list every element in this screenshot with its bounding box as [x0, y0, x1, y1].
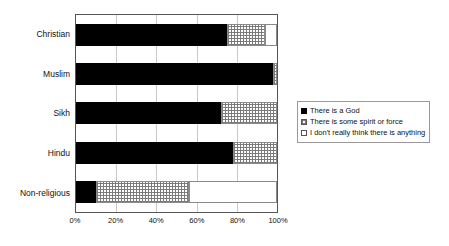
- value-axis-labels: 0%20%40%60%80%100%: [75, 216, 278, 230]
- bar-segment: [265, 24, 277, 46]
- legend-swatch-icon: [301, 119, 307, 125]
- category-label-christian: Christian: [0, 23, 70, 45]
- bar-row: [76, 181, 277, 203]
- bar-row: [76, 63, 277, 85]
- legend-swatch-icon: [301, 130, 307, 136]
- legend-item: I don't really think there is anything: [301, 128, 425, 138]
- bar-rows: [76, 15, 277, 212]
- bar-row: [76, 142, 277, 164]
- bar-row: [76, 24, 277, 46]
- bar-segment: [227, 24, 265, 46]
- bar-segment: [233, 142, 277, 164]
- bar-segment: [76, 181, 96, 203]
- category-label-non-religious: Non-religious: [0, 182, 70, 204]
- bar-segment: [96, 181, 188, 203]
- plot-area: [75, 14, 278, 213]
- legend-label: I don't really think there is anything: [310, 128, 425, 138]
- bar-segment: [76, 63, 273, 85]
- bar-segment: [273, 63, 277, 85]
- legend-item: There is some spirit or force: [301, 117, 425, 127]
- x-tick-label: 60%: [189, 216, 204, 225]
- x-tick-label: 20%: [108, 216, 123, 225]
- bar-segment: [221, 102, 277, 124]
- x-tick-label: 0%: [70, 216, 81, 225]
- bar-row: [76, 102, 277, 124]
- legend-item: There is a God: [301, 106, 425, 116]
- bar-segment: [76, 102, 221, 124]
- legend-label: There is some spirit or force: [310, 117, 403, 127]
- legend-swatch-icon: [301, 108, 307, 114]
- bar-segment: [76, 24, 227, 46]
- category-label-sikh: Sikh: [0, 102, 70, 124]
- x-tick-label: 100%: [268, 216, 287, 225]
- x-tick-label: 80%: [230, 216, 245, 225]
- bar-segment: [189, 181, 277, 203]
- legend-label: There is a God: [310, 106, 360, 116]
- bar-segment: [76, 142, 233, 164]
- x-tick-label: 40%: [149, 216, 164, 225]
- category-axis-labels: ChristianMuslimSikhHinduNon-religious: [0, 14, 70, 213]
- category-label-hindu: Hindu: [0, 142, 70, 164]
- category-label-muslim: Muslim: [0, 63, 70, 85]
- chart-legend: There is a GodThere is some spirit or fo…: [297, 101, 430, 143]
